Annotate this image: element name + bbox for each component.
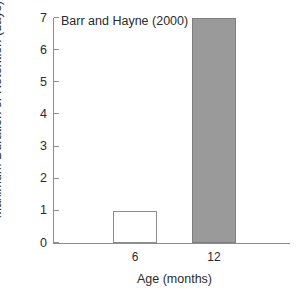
x-axis-tick-label-6: 6 xyxy=(132,250,139,264)
y-axis-title: Maximum Duration of Retention (days) xyxy=(0,0,22,262)
chart-annotation: Barr and Hayne (2000) xyxy=(61,14,188,28)
y-axis-tick-label: 2 xyxy=(40,172,47,185)
y-axis-tick-label: 1 xyxy=(40,204,47,217)
bar-12 xyxy=(192,18,236,243)
y-axis-title-text: Maximum Duration of Retention (days) xyxy=(0,1,4,219)
x-axis-line xyxy=(53,243,290,244)
plot-area: 01234567 612 Barr and Hayne (2000) xyxy=(53,18,290,243)
y-axis-tick-label: 5 xyxy=(40,76,47,89)
bar-6 xyxy=(113,211,157,243)
y-axis-tick-label: 0 xyxy=(40,236,47,249)
y-axis-tick-label: 3 xyxy=(40,140,47,153)
y-axis-tick-label: 7 xyxy=(40,11,47,24)
bars-layer xyxy=(53,18,290,243)
y-axis-tick-label: 6 xyxy=(40,43,47,56)
y-axis-tick-label: 4 xyxy=(40,108,47,121)
x-axis-tick-label-12: 12 xyxy=(207,250,220,264)
bar-chart-figure: Maximum Duration of Retention (days) 012… xyxy=(0,0,308,305)
x-axis-title: Age (months) xyxy=(53,272,296,286)
